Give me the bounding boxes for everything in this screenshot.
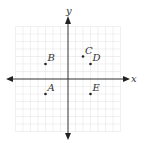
point-dot-icon — [44, 63, 47, 66]
point-dot-icon — [82, 55, 85, 58]
plotted-points: ABCDE — [44, 45, 100, 96]
x-axis-right-arrow-icon — [123, 76, 130, 82]
x-axis-left-arrow-icon — [6, 76, 13, 82]
point-label: D — [92, 52, 101, 63]
point-e: E — [89, 82, 100, 95]
point-label: B — [47, 52, 55, 63]
point-dot-icon — [44, 93, 47, 96]
point-label: E — [92, 82, 101, 93]
x-axis: x — [6, 73, 137, 84]
coordinate-plane: x y ABCDE — [0, 0, 150, 152]
y-axis-down-arrow-icon — [65, 133, 71, 140]
point-c: C — [82, 45, 93, 58]
y-axis-label: y — [65, 5, 72, 16]
point-label: A — [47, 82, 55, 93]
y-axis-up-arrow-icon — [65, 16, 71, 24]
point-dot-icon — [89, 93, 92, 96]
y-axis: y — [65, 5, 72, 140]
x-axis-label: x — [131, 73, 137, 84]
point-dot-icon — [89, 63, 92, 66]
